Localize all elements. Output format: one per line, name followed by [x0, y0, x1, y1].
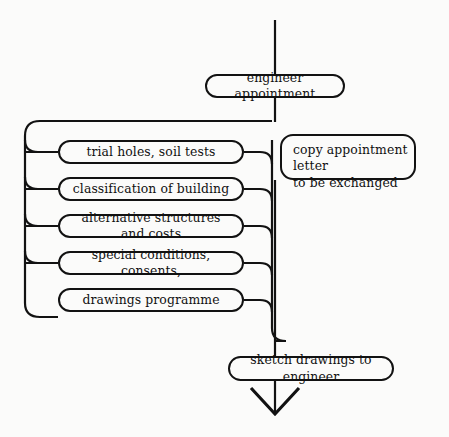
node-sketch-drawings[interactable]: sketch drawings to engineer — [228, 356, 394, 381]
left-stub-joint-4 — [25, 251, 38, 263]
right-stub-1 — [244, 152, 272, 164]
node-label: special conditions, consents, — [60, 247, 242, 280]
right-stub-4 — [244, 263, 272, 275]
left-stub-joint-3 — [25, 214, 38, 226]
node-label: copy appointment letter to be exchanged — [282, 136, 414, 191]
flowchart-canvas: engineer appointment copy appointment le… — [0, 0, 449, 437]
node-label: alternative structures and costs — [60, 210, 242, 243]
right-stub-5 — [244, 300, 272, 312]
node-classification-of-building[interactable]: classification of building — [58, 177, 244, 201]
node-alternative-structures[interactable]: alternative structures and costs — [58, 214, 244, 238]
right-stub-3 — [244, 226, 272, 238]
left-stub-joint-2 — [25, 177, 38, 189]
node-label: trial holes, soil tests — [76, 144, 225, 160]
node-label: drawings programme — [72, 292, 229, 308]
node-drawings-programme[interactable]: drawings programme — [58, 288, 244, 312]
node-special-conditions[interactable]: special conditions, consents, — [58, 251, 244, 275]
node-label: engineer appointment — [207, 70, 343, 103]
node-engineer-appointment[interactable]: engineer appointment — [205, 74, 345, 98]
node-trial-holes[interactable]: trial holes, soil tests — [58, 140, 244, 164]
right-stub-2 — [244, 189, 272, 201]
left-stub-joint-1 — [25, 140, 38, 152]
node-label: sketch drawings to engineer — [230, 352, 392, 385]
node-copy-appointment-letter[interactable]: copy appointment letter to be exchanged — [280, 134, 416, 180]
node-label: classification of building — [63, 181, 239, 197]
